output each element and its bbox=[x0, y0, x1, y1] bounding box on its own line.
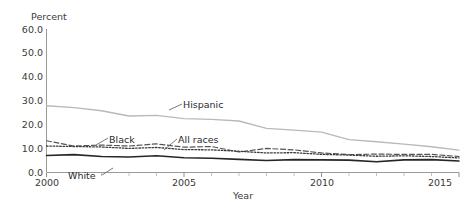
series-label-hispanic: Hispanic bbox=[183, 99, 223, 110]
series-label-white: White bbox=[68, 170, 96, 181]
leader-line-black bbox=[96, 138, 108, 145]
y-tick-label: 50.0 bbox=[22, 47, 43, 58]
x-tick-label: 2000 bbox=[35, 177, 59, 188]
series-label-black: Black bbox=[109, 134, 135, 145]
y-tick-labels: 60.0 50.0 40.0 30.0 20.0 10.0 0.0 bbox=[22, 24, 43, 178]
x-tick-marks bbox=[47, 173, 460, 178]
line-chart: 60.0 50.0 40.0 30.0 20.0 10.0 0.0 Percen… bbox=[0, 0, 467, 214]
y-tick-label: 0.0 bbox=[28, 167, 43, 178]
y-tick-label: 20.0 bbox=[22, 119, 43, 130]
x-tick-label: 2015 bbox=[428, 177, 452, 188]
series-annotations: Hispanic Black All races White bbox=[68, 99, 223, 181]
leader-line-hispanic bbox=[169, 104, 182, 110]
leader-line-white bbox=[102, 168, 113, 175]
x-tick-labels: 2000 2005 2010 2015 bbox=[35, 177, 452, 188]
y-tick-label: 30.0 bbox=[22, 95, 43, 106]
y-axis-title: Percent bbox=[31, 11, 67, 22]
series-label-all-races: All races bbox=[178, 134, 219, 145]
y-tick-label: 60.0 bbox=[22, 24, 43, 35]
axis-group bbox=[47, 29, 460, 173]
chart-canvas: 60.0 50.0 40.0 30.0 20.0 10.0 0.0 Percen… bbox=[0, 0, 467, 214]
x-axis-title: Year bbox=[232, 190, 253, 201]
y-tick-label: 10.0 bbox=[22, 143, 43, 154]
x-tick-label: 2005 bbox=[172, 177, 196, 188]
y-tick-label: 40.0 bbox=[22, 71, 43, 82]
x-tick-label: 2010 bbox=[310, 177, 334, 188]
